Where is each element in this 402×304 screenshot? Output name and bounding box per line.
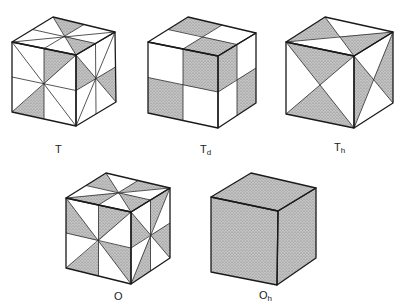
cube-O [66,173,170,284]
label-Oh: Oh [259,289,272,303]
cube-Th [286,17,393,128]
diagonal [66,188,170,198]
cube-Td [148,17,256,128]
shaded-front-face [211,197,278,285]
cube-Oh [211,173,316,285]
shaded-triangle [12,84,44,119]
shaded-triangle [53,17,84,36]
label-T: T [55,143,62,155]
shaded-triangle [66,241,99,276]
symmetry-figure: T Td Th O Oh [0,0,402,304]
shaded-square [237,68,256,116]
shaded-square [168,17,222,37]
label-Td: Td [200,143,211,157]
label-Th: Th [334,141,345,155]
cube-T [12,17,116,126]
label-O: O [114,290,123,302]
shaded-triangle [286,17,340,42]
